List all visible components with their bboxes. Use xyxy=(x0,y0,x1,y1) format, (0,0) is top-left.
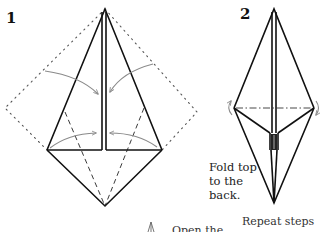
bottom-text-right: Repeat steps xyxy=(242,216,314,227)
valley-fold-lines xyxy=(65,108,144,206)
step-2-caption: Fold top to the back. xyxy=(209,160,257,202)
arrow-lower-left-icon xyxy=(50,133,96,148)
caption-line-3: back. xyxy=(209,188,257,202)
arrow-right-corner-icon xyxy=(316,101,319,115)
kite-outline xyxy=(47,9,162,206)
caption-line-2: to the xyxy=(209,174,257,188)
step-number-2: 2 xyxy=(240,7,250,22)
fold-arrows xyxy=(45,64,157,148)
bottom-arrow-icon xyxy=(148,222,154,232)
arrow-left-corner-icon xyxy=(229,101,232,115)
step-number-1: 1 xyxy=(6,11,16,26)
origami-diagram-canvas xyxy=(0,0,321,232)
bottom-text-left: Open the xyxy=(172,225,223,232)
arrow-upper-right-icon xyxy=(110,64,153,92)
caption-line-1: Fold top xyxy=(209,160,257,174)
dotted-square-outline xyxy=(5,9,197,150)
step-1-diagram xyxy=(5,9,197,206)
